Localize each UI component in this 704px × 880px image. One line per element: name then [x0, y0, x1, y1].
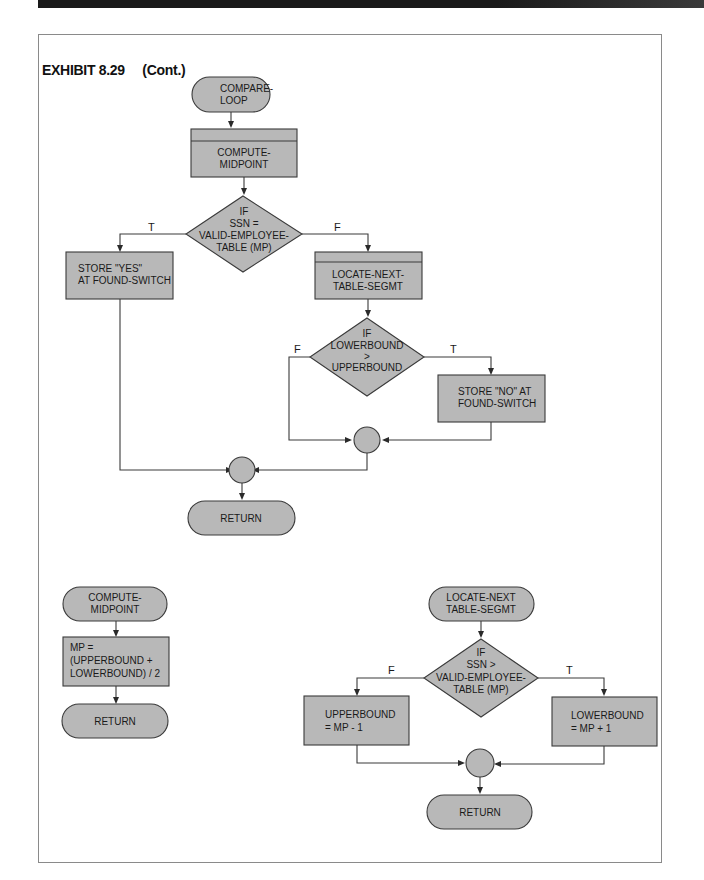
predefined-process-compute-midpoint: COMPUTE- MIDPOINT: [191, 129, 297, 177]
terminal-compute-midpoint: COMPUTE- MIDPOINT: [63, 587, 167, 621]
process-store-no: STORE "NO" AT FOUND-SWITCH: [438, 375, 545, 422]
connector-outer: [229, 457, 255, 483]
predefined-process-locate-next: LOCATE-NEXT- TABLE-SEGMT: [315, 252, 422, 299]
label: (UPPERBOUND +: [70, 655, 153, 666]
label: TABLE-SEGMT: [333, 281, 403, 292]
process-lowerbound: LOWERBOUND = MP + 1: [552, 697, 657, 746]
label: TABLE (MP): [453, 684, 508, 695]
terminal-return-compute: RETURN: [62, 704, 168, 738]
label: MP =: [70, 642, 94, 653]
arrow-icon: [601, 689, 607, 696]
label: STORE "YES": [78, 263, 143, 274]
label: VALID-EMPLOYEE-: [436, 672, 526, 683]
arrow-icon: [458, 760, 465, 766]
arrow-icon: [117, 245, 123, 252]
label: LOCATE-NEXT-: [332, 269, 404, 280]
label: = MP + 1: [571, 723, 612, 734]
terminal-locate-next: LOCATE-NEXT TABLE-SEGMT: [429, 587, 534, 621]
label: COMPUTE-: [88, 592, 141, 603]
flowchart-canvas: COMPARE- LOOP COMPUTE- MIDPOINT IF SSN =…: [0, 0, 704, 880]
arrow-icon: [365, 245, 371, 252]
arrow-icon: [241, 188, 247, 195]
label: MIDPOINT: [220, 159, 269, 170]
label: SSN =: [229, 218, 258, 229]
label: AT FOUND-SWITCH: [78, 275, 171, 286]
label: LOWERBOUND: [331, 340, 404, 351]
arrow-icon: [354, 689, 360, 696]
terminal-return-main: RETURN: [188, 501, 295, 535]
label: RETURN: [220, 513, 262, 524]
label: IF: [477, 647, 486, 658]
process-compute-mp: MP = (UPPERBOUND + LOWERBOUND) / 2: [63, 637, 169, 686]
arrow-icon: [488, 368, 494, 375]
true-branch-label: T: [566, 664, 573, 676]
label: LOOP: [220, 95, 248, 106]
label: LOWERBOUND) / 2: [70, 668, 160, 679]
decision-ssn-gt: IF SSN > VALID-EMPLOYEE- TABLE (MP): [424, 639, 538, 717]
arrow-icon: [365, 310, 371, 317]
connector-inner: [354, 427, 380, 453]
label: VALID-EMPLOYEE-: [199, 230, 289, 241]
arrow-icon: [239, 493, 245, 500]
label: SSN >: [466, 659, 495, 670]
label: UPPERBOUND: [332, 362, 403, 373]
connector-locate: [466, 749, 494, 777]
decision-lowerbound-gt-upperbound: IF LOWERBOUND > UPPERBOUND: [310, 318, 424, 396]
terminal-return-locate: RETURN: [427, 795, 532, 829]
label: IF: [363, 328, 372, 339]
label: >: [364, 351, 370, 362]
label: COMPUTE-: [217, 147, 270, 158]
terminal-compare-loop: COMPARE- LOOP: [192, 77, 273, 112]
decision-ssn-equals: IF SSN = VALID-EMPLOYEE- TABLE (MP): [186, 196, 302, 272]
label: FOUND-SWITCH: [458, 398, 536, 409]
label: = MP - 1: [325, 722, 363, 733]
arrow-icon: [478, 631, 484, 638]
true-branch-label: T: [450, 343, 457, 355]
arrow-icon: [113, 697, 119, 704]
process-store-yes: STORE "YES" AT FOUND-SWITCH: [66, 252, 173, 299]
label: MIDPOINT: [91, 604, 140, 615]
arrow-icon: [477, 787, 483, 794]
arrow-icon: [228, 121, 234, 128]
false-branch-label: F: [334, 221, 341, 233]
label: RETURN: [94, 716, 136, 727]
label: LOCATE-NEXT: [446, 592, 515, 603]
label: COMPARE-: [220, 83, 273, 94]
label: TABLE-SEGMT: [446, 604, 516, 615]
arrow-icon: [494, 761, 501, 767]
label: LOWERBOUND: [571, 710, 644, 721]
arrow-icon: [113, 630, 119, 637]
false-branch-label: F: [388, 664, 395, 676]
false-branch-label: F: [294, 343, 301, 355]
label: TABLE (MP): [216, 242, 271, 253]
arrow-icon: [382, 437, 389, 443]
label: RETURN: [459, 807, 501, 818]
process-upperbound: UPPERBOUND = MP - 1: [304, 696, 409, 745]
label: UPPERBOUND: [325, 709, 396, 720]
true-branch-label: T: [148, 221, 155, 233]
label: STORE "NO" AT: [458, 386, 531, 397]
arrow-icon: [345, 437, 352, 443]
label: IF: [240, 206, 249, 217]
